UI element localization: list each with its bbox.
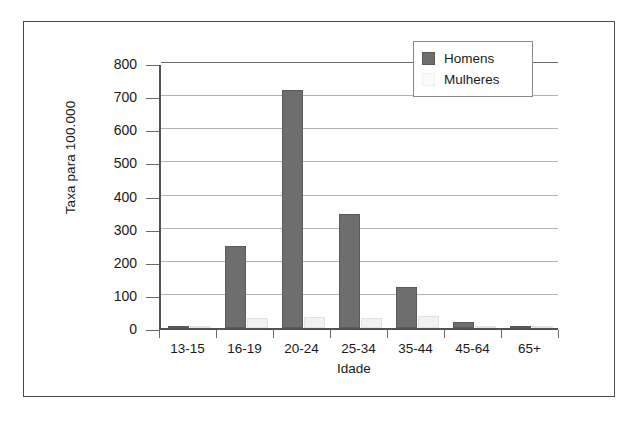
bar-homens-45-64: [453, 322, 474, 328]
legend-label-homens: Homens: [444, 51, 494, 66]
legend-label-mulheres: Mulheres: [444, 72, 500, 87]
y-tick-label: 200: [114, 255, 137, 271]
bar-mulheres-35-44: [418, 316, 439, 328]
y-tick-label: 600: [114, 122, 137, 138]
y-tick-label: 400: [114, 189, 137, 205]
y-tick-mark: [146, 65, 159, 66]
y-tick-mark: [146, 264, 159, 265]
bar-homens-20-24: [282, 90, 303, 328]
x-category-label: 45-64: [444, 341, 501, 356]
x-tick-mark: [501, 330, 502, 338]
y-tick-mark: [146, 164, 159, 165]
x-category-label: 25-34: [330, 341, 387, 356]
y-tick-mark: [146, 231, 159, 232]
legend-swatch-homens-icon: [422, 52, 435, 65]
y-tick-label: 700: [114, 89, 137, 105]
bar-mulheres-13-15: [190, 326, 211, 328]
plot-area: [159, 65, 558, 330]
gridline: [161, 195, 558, 196]
x-category-label: 16-19: [216, 341, 273, 356]
y-tick-mark: [146, 297, 159, 298]
legend-swatch-mulheres-icon: [422, 73, 435, 86]
y-tick-label: 800: [114, 56, 137, 72]
bar-homens-65+: [510, 326, 531, 328]
gridline: [161, 161, 558, 162]
x-tick-mark: [387, 330, 388, 338]
y-tick-mark: [146, 98, 159, 99]
x-tick-mark: [273, 330, 274, 338]
legend-item-mulheres: Mulheres: [422, 69, 524, 90]
bar-mulheres-25-34: [361, 318, 382, 328]
x-axis-categories: 13-1516-1920-2425-3435-4445-6465+: [159, 330, 560, 362]
y-axis-title: Taxa para 100.000: [63, 68, 78, 248]
bar-homens-35-44: [396, 287, 417, 328]
x-axis-title: Idade: [154, 361, 554, 376]
bar-homens-13-15: [168, 326, 189, 328]
x-tick-mark: [216, 330, 217, 338]
bar-chart: Taxa para 100.000 0100200300400500600700…: [24, 22, 616, 398]
x-category-label: 65+: [501, 341, 558, 356]
bar-homens-16-19: [225, 246, 246, 328]
legend-item-homens: Homens: [422, 48, 524, 69]
x-tick-mark: [444, 330, 445, 338]
gridline: [161, 128, 558, 129]
y-tick-label: 500: [114, 155, 137, 171]
x-tick-mark: [330, 330, 331, 338]
chart-legend: Homens Mulheres: [413, 41, 533, 97]
y-tick-mark: [146, 131, 159, 132]
figure-frame: Taxa para 100.000 0100200300400500600700…: [23, 21, 615, 397]
x-category-label: 13-15: [159, 341, 216, 356]
x-category-label: 20-24: [273, 341, 330, 356]
y-tick-label: 0: [129, 321, 137, 337]
bar-mulheres-16-19: [247, 318, 268, 328]
x-tick-mark: [159, 330, 160, 338]
y-tick-mark: [146, 198, 159, 199]
bar-mulheres-20-24: [304, 317, 325, 328]
y-tick-label: 300: [114, 222, 137, 238]
x-tick-mark: [558, 330, 559, 338]
x-category-label: 35-44: [387, 341, 444, 356]
bar-mulheres-65+: [532, 326, 553, 328]
bar-mulheres-45-64: [475, 326, 496, 328]
y-tick-label: 100: [114, 288, 137, 304]
y-tick-mark: [146, 330, 159, 331]
bar-homens-25-34: [339, 214, 360, 328]
